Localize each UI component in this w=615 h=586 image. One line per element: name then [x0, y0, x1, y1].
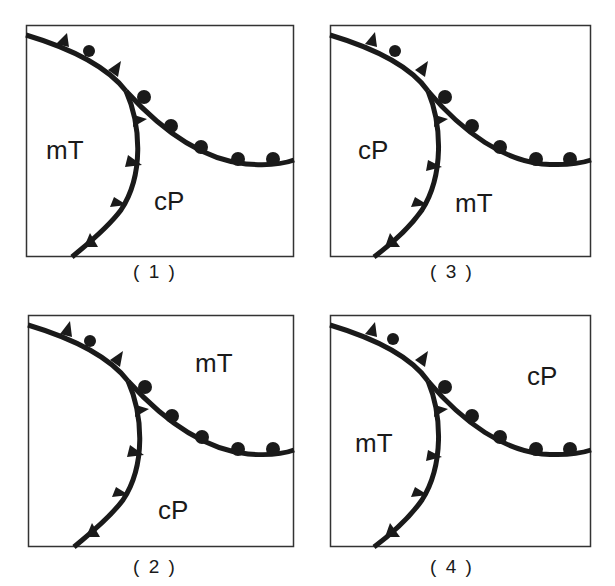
- air-mass-label: mT: [46, 137, 84, 163]
- air-mass-label: cP: [358, 137, 388, 163]
- cold-front-icon: [72, 91, 147, 257]
- air-mass-label: cP: [527, 363, 557, 389]
- panel-2: mT cP: [28, 315, 294, 547]
- panel-1: mT cP: [26, 25, 294, 257]
- air-mass-label: cP: [158, 497, 188, 523]
- air-mass-label: mT: [455, 190, 493, 216]
- cold-front-icon: [374, 381, 448, 547]
- panel-4: cP mT: [330, 315, 591, 547]
- warm-front-icon: [128, 380, 294, 456]
- panel-caption-3: ( 3 ): [412, 262, 492, 281]
- panel-caption-1: ( 1 ): [115, 262, 195, 281]
- occluded-front-icon: [330, 32, 428, 91]
- cold-front-icon: [74, 381, 149, 547]
- warm-front-icon: [428, 90, 591, 166]
- air-mass-label: mT: [355, 430, 393, 456]
- panel-3: cP mT: [330, 25, 591, 257]
- cold-front-icon: [374, 91, 448, 257]
- occluded-front-icon: [28, 321, 128, 381]
- panel-caption-2: ( 2 ): [115, 557, 195, 576]
- air-mass-label: cP: [154, 188, 184, 214]
- occluded-front-icon: [330, 322, 428, 381]
- warm-front-icon: [428, 380, 591, 456]
- air-mass-label: mT: [195, 350, 233, 376]
- occluded-front-icon: [26, 33, 126, 91]
- warm-front-icon: [126, 90, 294, 166]
- panel-caption-4: ( 4 ): [412, 557, 492, 576]
